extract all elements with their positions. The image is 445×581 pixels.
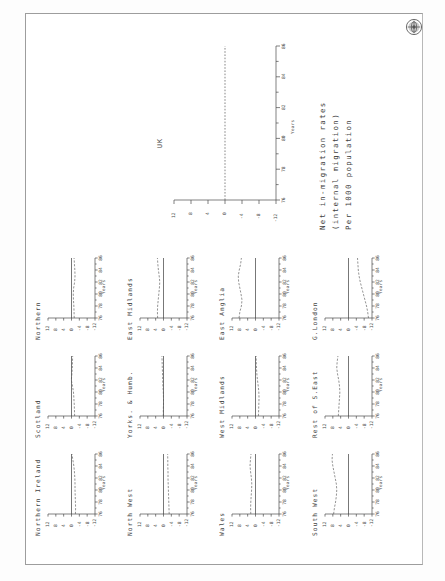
panel-title: G.London <box>311 301 318 340</box>
panel-x-axis-title: Years <box>378 280 383 294</box>
panel-x-tick: 76 <box>282 511 287 517</box>
panel-x-tick: 78 <box>98 499 103 505</box>
panel-y-tick: -4 <box>354 423 359 429</box>
chart-uk: UK 12 8 4 0 -4 -8 -12 76 <box>150 40 340 230</box>
panel-y-tick: -4 <box>354 521 359 527</box>
panel-y-tick: -12 <box>369 421 374 429</box>
panel-y-tick: 4 <box>153 524 158 527</box>
panel-y-tick: 12 <box>137 325 142 331</box>
chart-panel: Northern Ireland 12840-4-8-12 7678808284… <box>33 448 121 540</box>
panel-x-axis-title: Years <box>285 378 290 392</box>
panel-y-tick: -4 <box>77 325 82 331</box>
panel-y-tick: 0 <box>161 328 166 331</box>
panel-x-tick: 86 <box>375 353 380 359</box>
panel-y-tick: -8 <box>85 521 90 527</box>
panel-x-tick: 84 <box>282 365 287 371</box>
panel-y-tick: -12 <box>184 323 189 331</box>
x-tick-82: 82 <box>281 104 286 110</box>
panel-y-tick: -4 <box>77 521 82 527</box>
panel-y-tick: -8 <box>85 423 90 429</box>
chart-panel: West Midlands 12840-4-8-12 767880828486 … <box>217 350 305 442</box>
panel-y-tick: 8 <box>237 524 242 527</box>
panel-x-axis-title: Years <box>101 378 106 392</box>
panel-y-tick: 4 <box>338 328 343 331</box>
panel-y-tick: 4 <box>153 426 158 429</box>
panel-x-axis-title: Years <box>378 476 383 490</box>
panel-title: Scotland <box>34 399 41 438</box>
panel-y-tick: 0 <box>253 524 258 527</box>
panel-y-tick: 12 <box>229 325 234 331</box>
panel-y-tick: 12 <box>322 423 327 429</box>
panel-x-tick: 78 <box>190 303 195 309</box>
panel-x-axis-title: Years <box>193 378 198 392</box>
panel-x-tick: 76 <box>282 315 287 321</box>
panel-y-tick: 12 <box>322 325 327 331</box>
y-tick-8: 8 <box>188 212 193 215</box>
panel-y-tick: 4 <box>61 426 66 429</box>
panel-y-tick: 8 <box>53 328 58 331</box>
university-crest-icon <box>405 18 423 36</box>
caption-line-2: (internal migration) <box>331 60 340 230</box>
chart-panel: South West 12840-4-8-12 767880828486 Yea… <box>310 448 398 540</box>
panel-x-tick: 84 <box>98 267 103 273</box>
x-tick-78: 78 <box>281 166 286 172</box>
panel-y-tick: -8 <box>269 521 274 527</box>
panel-x-axis-title: Years <box>101 280 106 294</box>
panel-y-tick: -8 <box>177 325 182 331</box>
panel-y-tick: -8 <box>177 423 182 429</box>
panel-x-tick: 84 <box>282 463 287 469</box>
panel-y-tick: -4 <box>169 325 174 331</box>
panel-y-tick: 12 <box>229 521 234 527</box>
panel-x-axis-title: Years <box>101 476 106 490</box>
panel-y-tick: 8 <box>237 426 242 429</box>
panel-x-tick: 76 <box>282 413 287 419</box>
panel-x-tick: 76 <box>375 413 380 419</box>
panel-x-tick: 78 <box>190 401 195 407</box>
panel-y-tick: -8 <box>362 423 367 429</box>
panel-title: North West <box>126 488 133 536</box>
panel-x-tick: 86 <box>375 255 380 261</box>
panel-title: Wales <box>218 512 225 536</box>
panel-y-tick: -4 <box>354 325 359 331</box>
panel-x-tick: 86 <box>190 255 195 261</box>
panel-x-tick: 84 <box>98 365 103 371</box>
panel-x-tick: 78 <box>98 303 103 309</box>
panel-y-tick: -4 <box>261 521 266 527</box>
y-tick-4: 4 <box>205 212 210 215</box>
panel-y-tick: 8 <box>330 524 335 527</box>
y-tick-m12: -12 <box>273 214 278 222</box>
panel-y-tick: 4 <box>153 328 158 331</box>
panel-y-tick: 4 <box>61 524 66 527</box>
panel-x-tick: 84 <box>190 365 195 371</box>
panel-y-tick: 8 <box>145 524 150 527</box>
panel-y-tick: -12 <box>369 323 374 331</box>
panel-y-tick: 12 <box>229 423 234 429</box>
panel-x-tick: 78 <box>375 401 380 407</box>
x-tick-80: 80 <box>281 135 286 141</box>
panel-x-tick: 78 <box>375 499 380 505</box>
panel-y-tick: 8 <box>330 328 335 331</box>
panel-title: Northern <box>34 301 41 340</box>
panel-title: South West <box>311 488 318 536</box>
panel-x-tick: 84 <box>98 463 103 469</box>
panel-y-tick: 4 <box>245 328 250 331</box>
panel-x-tick: 76 <box>190 315 195 321</box>
panel-title: Rest of S.East <box>311 370 318 438</box>
panel-title: West Midlands <box>218 375 225 438</box>
panel-x-axis-title: Years <box>378 378 383 392</box>
panel-y-tick: 12 <box>45 325 50 331</box>
panel-y-tick: -8 <box>362 325 367 331</box>
panel-y-tick: 12 <box>137 423 142 429</box>
panel-y-tick: 8 <box>237 328 242 331</box>
panel-y-tick: 0 <box>69 426 74 429</box>
panel-y-tick: -8 <box>362 521 367 527</box>
y-tick-m8: -8 <box>256 213 261 219</box>
panel-y-tick: 4 <box>338 524 343 527</box>
panel-y-tick: -8 <box>269 423 274 429</box>
panel-x-tick: 86 <box>190 451 195 457</box>
panel-y-tick: -12 <box>276 519 281 527</box>
panel-x-axis-title: Years <box>285 476 290 490</box>
panel-y-tick: 0 <box>161 524 166 527</box>
panel-x-tick: 76 <box>375 315 380 321</box>
panel-y-tick: -12 <box>276 323 281 331</box>
